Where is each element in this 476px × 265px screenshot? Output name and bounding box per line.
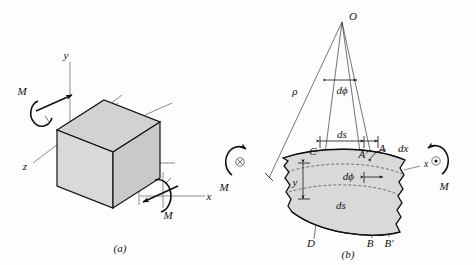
construction-line-top-right (145, 103, 172, 115)
label-rho: ρ (291, 85, 297, 97)
left-moment-vector (36, 95, 72, 111)
moment-label-left-b: M (218, 181, 229, 193)
moment-label-left-a: M (16, 85, 27, 97)
point-label-b: B (367, 237, 374, 249)
panel-b-group: O ρ dϕ ds C A' A dx dϕ y ds D B B' M M x… (218, 10, 449, 261)
dot-in-circle-center (435, 160, 438, 163)
axis-label-x: x (206, 190, 212, 202)
point-label-a-prime: A' (357, 148, 368, 160)
bending-figure: y z x M M (a) (0, 0, 476, 265)
panel-a-group: y z x M M (a) (16, 49, 211, 255)
wedge-body (283, 149, 405, 235)
left-moment-barb (45, 116, 50, 123)
moment-label-right-b: M (438, 180, 449, 192)
point-label-a: A (378, 142, 386, 154)
point-label-b-prime: B' (384, 237, 394, 249)
axis-label-x-b: x (423, 159, 429, 169)
point-label-d: D (306, 237, 315, 249)
right-moment-vector (143, 186, 178, 202)
label-dx: dx (398, 142, 409, 154)
label-y-distance: y (292, 176, 298, 188)
label-ds-top: ds (337, 128, 347, 140)
label-dphi-mid: dϕ (343, 170, 355, 182)
axis-label-z: z (22, 160, 28, 172)
axis-label-y: y (63, 49, 69, 61)
figure-canvas: y z x M M (a) (0, 0, 476, 265)
caption-a: (a) (114, 242, 127, 255)
x-axis-leader-b (404, 166, 420, 170)
label-dphi-top: dϕ (336, 84, 348, 96)
point-label-o: O (349, 10, 357, 22)
right-moment-barb (165, 178, 171, 184)
label-ds-bottom: ds (336, 199, 346, 211)
caption-b: (b) (342, 248, 355, 261)
radius-rho-endtick (265, 173, 273, 181)
point-label-c: C (309, 145, 317, 157)
moment-label-right-a: M (162, 209, 173, 221)
right-moment-arc-b (428, 146, 448, 174)
